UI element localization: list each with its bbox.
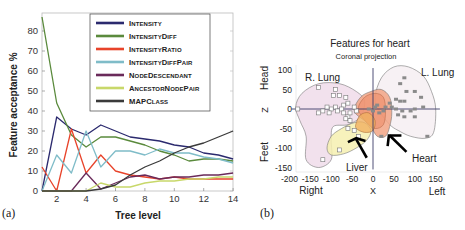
open-square-point [352, 105, 356, 109]
filled-square-point [396, 113, 400, 116]
z-tick-label: 100 [278, 65, 292, 75]
x-axis-ticks-b: -200-150-100-50050100150 [281, 174, 443, 184]
filled-square-point [394, 108, 398, 111]
z-tick-label: 50 [283, 85, 293, 95]
legend-label: INTENSITYDIFFPAIR [129, 58, 193, 67]
y-tick-label: 70 [27, 45, 38, 56]
open-square-point [325, 105, 329, 109]
filled-square-point [398, 82, 402, 85]
filled-square-point [384, 106, 388, 109]
filled-square-point [377, 111, 381, 114]
open-square-point [352, 128, 356, 132]
x-tick-label: 50 [389, 174, 399, 184]
z-side-label-feet: Feet [259, 142, 270, 162]
open-square-point [333, 88, 337, 92]
x-tick-label: -100 [323, 174, 340, 184]
z-tick-label: -50 [280, 124, 293, 134]
x-tick-label: 4 [83, 193, 88, 204]
filled-square-point [367, 108, 371, 111]
x-tick-label: 2 [54, 193, 59, 204]
x-tick-label: 8 [142, 193, 147, 204]
figure: 010203040506070802468101214Tree levelFea… [0, 0, 465, 230]
filled-square-point [425, 135, 429, 138]
filled-square-point [402, 76, 406, 79]
label-heart: Heart [412, 153, 437, 164]
x-tick-label: 150 [429, 174, 443, 184]
open-square-point [348, 111, 352, 115]
z-tick-label: 0 [287, 104, 292, 114]
y-tick-label: 80 [27, 25, 38, 36]
filled-square-point [400, 109, 404, 112]
heart-arrow [390, 136, 407, 152]
open-square-point [333, 105, 337, 109]
z-tick-label: -150 [275, 163, 292, 173]
y-tick-label: 50 [27, 85, 38, 96]
x-tick-label: 0 [371, 174, 376, 184]
filled-square-point [409, 109, 413, 112]
filled-square-point [402, 115, 406, 118]
filled-square-point [371, 109, 375, 112]
filled-square-point [388, 102, 392, 105]
z-axis-ticks: 100500-50-100-150 [275, 65, 292, 173]
y-tick-label: 0 [33, 185, 38, 196]
x-axis-label: X [370, 186, 376, 196]
x-tick-label: 14 [228, 193, 239, 204]
filled-square-point [413, 108, 417, 111]
filled-square-point [381, 109, 385, 112]
chart-title: Features for heart [330, 38, 410, 49]
open-square-point [344, 95, 348, 99]
x-tick-label: -50 [346, 174, 359, 184]
legend: INTENSITYINTENSITYDIFFINTENSITYRATIOINTE… [90, 14, 210, 111]
label-liver: Liver [346, 162, 368, 173]
label-l-lung: L. Lung [421, 67, 454, 78]
x-tick-label: 100 [408, 174, 422, 184]
panel-label-b: (b) [260, 206, 274, 220]
filled-square-point [402, 100, 406, 103]
open-square-point [327, 111, 331, 115]
filled-square-point [413, 115, 417, 118]
filled-square-point [421, 106, 425, 109]
legend-label: INTENSITY [129, 19, 162, 28]
open-square-point [344, 117, 348, 121]
open-square-point [342, 103, 346, 107]
filled-square-point [413, 90, 417, 93]
open-square-point [346, 127, 350, 131]
filled-square-point [398, 100, 402, 103]
open-square-point [321, 158, 325, 162]
y-axis-label: Feature acceptance % [8, 52, 19, 157]
open-square-point [338, 93, 342, 97]
open-square-point [331, 93, 335, 97]
filled-square-point [379, 135, 383, 138]
filled-square-point [390, 106, 394, 109]
x-axis-label: Tree level [115, 210, 161, 221]
line-chart-panel-a: 010203040506070802468101214Tree levelFea… [2, 13, 238, 221]
x-tick-label: 6 [113, 193, 118, 204]
z-side-label-head: Head [259, 66, 270, 90]
y-tick-label: 40 [27, 105, 38, 116]
open-square-point [342, 111, 346, 115]
open-square-point [354, 109, 358, 113]
open-square-point [348, 119, 352, 123]
legend-label: INTENSITYDIFF [129, 32, 177, 41]
chart-subtitle: Coronal projection [336, 52, 397, 61]
open-square-point [329, 107, 333, 111]
open-square-point [317, 111, 321, 115]
legend-label: NODEDESCENDANT [129, 71, 192, 80]
filled-square-point [419, 96, 423, 99]
scatter-panel-b: Features for heartCoronal projectionR. L… [259, 38, 454, 220]
y-tick-label: 10 [27, 165, 38, 176]
x-tick-label: -200 [281, 174, 298, 184]
y-tick-label: 20 [27, 145, 38, 156]
open-square-point [335, 109, 339, 113]
x-tick-label: 10 [169, 193, 180, 204]
y-tick-label: 30 [27, 125, 38, 136]
legend-label: ANCESTORNODEPAIR [129, 84, 200, 93]
filled-square-point [404, 90, 408, 93]
open-square-point [317, 86, 321, 90]
open-square-point [340, 107, 344, 111]
x-tick-label: 12 [198, 193, 209, 204]
open-square-point [338, 148, 342, 152]
x-side-label-left: Left [429, 186, 446, 197]
legend-label: MAPCLASS [129, 97, 168, 106]
x-tick-label: -150 [302, 174, 319, 184]
